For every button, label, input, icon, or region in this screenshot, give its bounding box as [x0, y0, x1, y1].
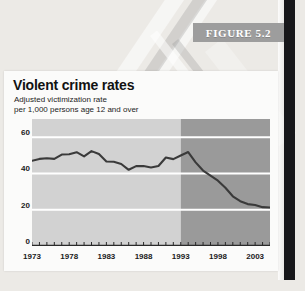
x-tick-label: 1973: [23, 252, 41, 261]
x-tick-label: 1983: [97, 252, 115, 261]
chart-subtitle: Adjusted victimization rate per 1,000 pe…: [14, 95, 139, 114]
line-chart-svg: [32, 119, 270, 246]
x-tick-label: 1978: [60, 252, 78, 261]
x-tick-label: 1998: [209, 252, 227, 261]
x-axis-labels: 1973197819831988199319982003: [32, 252, 270, 266]
y-axis-labels: 0204060: [8, 115, 32, 250]
x-tick-label: 1993: [172, 252, 190, 261]
chart-card: Violent crime rates Adjusted victimizati…: [4, 71, 278, 271]
y-tick-label: 60: [21, 128, 30, 137]
page-edge-spine: [284, 0, 295, 280]
y-tick-label: 40: [21, 164, 30, 173]
y-tick-label: 20: [21, 201, 30, 210]
x-tick-label: 1988: [135, 252, 153, 261]
y-tick-label: 0: [26, 237, 30, 246]
x-tick-label: 2003: [246, 252, 264, 261]
plot-area: [32, 119, 270, 246]
chart-title: Violent crime rates: [13, 77, 134, 93]
figure-banner: FIGURE 5.2: [193, 23, 284, 42]
